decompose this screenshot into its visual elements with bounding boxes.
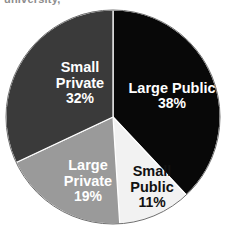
pie-chart-svg [0,0,228,233]
pie-slices [6,10,220,224]
pie-chart: university, Large Public 38% Small Priva… [0,0,228,233]
